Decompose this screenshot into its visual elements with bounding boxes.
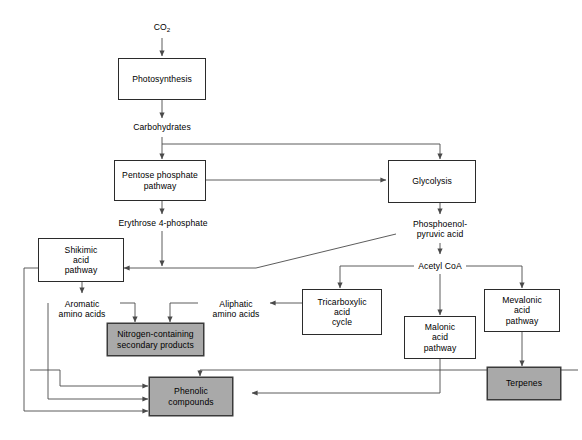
node-aromatic-amino-acids: Aromatic amino acids — [44, 294, 120, 324]
edge-aromatic-to-nitrogen — [120, 303, 135, 322]
node-glycolysis-label: Glycolysis — [410, 176, 454, 186]
node-terpenes-label: Terpenes — [504, 378, 544, 388]
node-aliphatic-amino-acids-label: Aliphatic amino acids — [211, 299, 262, 319]
node-acetyl-coa-label: Acetyl CoA — [416, 261, 464, 271]
node-mevalonic-acid-pathway-label: Mevalonic acid pathway — [500, 295, 544, 325]
node-carbohydrates-label: Carbohydrates — [131, 122, 193, 132]
node-co2: CO2 — [140, 18, 184, 36]
edge-pep-to-shikimic-diagonal — [124, 234, 396, 268]
node-acetyl-coa: Acetyl CoA — [410, 258, 470, 274]
node-aliphatic-amino-acids: Aliphatic amino acids — [198, 294, 274, 324]
node-malonic-acid-pathway: Malonic acid pathway — [404, 316, 476, 359]
node-glycolysis: Glycolysis — [388, 160, 476, 203]
edge-aliphatic-to-nitrogen — [170, 303, 198, 322]
node-phosphoenolpyruvic-acid: Phosphoenol- pyruvic acid — [396, 214, 484, 244]
node-aromatic-amino-acids-label: Aromatic amino acids — [57, 299, 108, 319]
node-phenolic-compounds: Phenolic compounds — [149, 377, 233, 416]
node-malonic-acid-pathway-label: Malonic acid pathway — [422, 322, 459, 352]
node-photosynthesis: Photosynthesis — [118, 58, 206, 100]
edge-acetylcoa-to-mevalonic — [466, 266, 522, 288]
pathway-diagram: CO2 Photosynthesis Carbohydrates Pentose… — [0, 0, 582, 440]
node-mevalonic-acid-pathway: Mevalonic acid pathway — [484, 289, 560, 332]
node-tricarboxylic-acid-cycle: Tricarboxylic acid cycle — [302, 289, 382, 335]
node-nitrogen-containing-secondary-products: Nitrogen-containing secondary products — [107, 323, 204, 356]
node-shikimic-acid-pathway-label: Shikimic acid pathway — [63, 245, 100, 275]
node-pentose-phosphate-pathway: Pentose phosphate pathway — [114, 160, 206, 201]
node-erythrose-4-phosphate-label: Erythrose 4-phosphate — [116, 218, 209, 228]
edge-malonic-to-phenolic — [252, 359, 440, 393]
node-terpenes: Terpenes — [487, 367, 561, 400]
node-nitrogen-containing-secondary-products-label: Nitrogen-containing secondary products — [115, 329, 196, 349]
node-carbohydrates: Carbohydrates — [120, 119, 204, 135]
node-photosynthesis-label: Photosynthesis — [130, 74, 194, 84]
node-erythrose-4-phosphate: Erythrose 4-phosphate — [104, 215, 222, 231]
node-tricarboxylic-acid-cycle-label: Tricarboxylic acid cycle — [315, 297, 368, 327]
node-phosphoenolpyruvic-acid-label: Phosphoenol- pyruvic acid — [411, 219, 469, 239]
node-phenolic-compounds-label: Phenolic compounds — [166, 386, 215, 406]
edge-carbohydrates-to-glycolysis — [162, 144, 440, 159]
edge-acetylcoa-to-tca — [340, 266, 414, 288]
node-pentose-phosphate-pathway-label: Pentose phosphate pathway — [120, 170, 200, 190]
node-shikimic-acid-pathway: Shikimic acid pathway — [38, 238, 124, 282]
